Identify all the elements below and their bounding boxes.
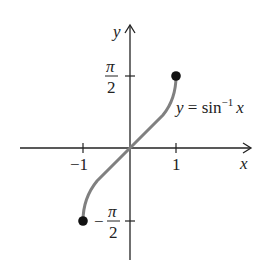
pi-numerator: π xyxy=(108,202,117,221)
x-tick-label-neg1: −1 xyxy=(70,155,88,174)
y-axis-label: y xyxy=(111,22,121,41)
endpoint-bottom xyxy=(78,216,88,226)
minus-sign: − xyxy=(94,212,104,231)
function-label-sup: −1 xyxy=(221,96,233,108)
two-denominator: 2 xyxy=(109,223,118,242)
pi-numerator: π xyxy=(106,57,115,76)
y-tick-label-neg-pi-half: − π 2 xyxy=(94,202,120,242)
function-label-y: y xyxy=(174,98,184,117)
y-tick-label-pi-half: π 2 xyxy=(105,57,118,97)
function-label: y = sin−1x xyxy=(174,96,244,117)
function-label-eq: = sin xyxy=(184,98,222,117)
endpoint-top xyxy=(171,71,181,81)
function-label-x: x xyxy=(235,98,244,117)
arcsin-graph: y x −1 1 π 2 − π 2 y = sin−1x xyxy=(0,0,272,266)
two-denominator: 2 xyxy=(107,78,116,97)
x-tick-label-1: 1 xyxy=(172,155,181,174)
x-axis-label: x xyxy=(239,154,248,173)
